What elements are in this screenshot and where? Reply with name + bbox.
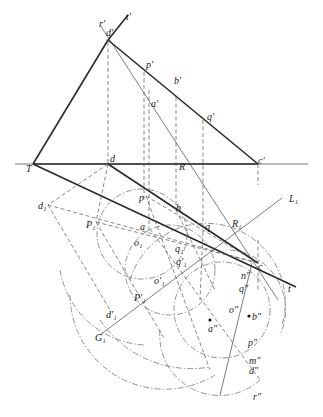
constr-d1-c [48, 205, 258, 263]
label-b: b [176, 202, 181, 213]
label-L1: L₁ [288, 193, 298, 204]
label-b2: b″ [252, 311, 262, 322]
label-q1-prime: q′₁ [176, 256, 187, 267]
label-R: R [178, 161, 185, 172]
point-b2 [247, 314, 250, 317]
label-p2: p″ [247, 337, 258, 348]
label-d-prime: d′ [106, 27, 114, 38]
label-t-prime: t′ [126, 11, 132, 22]
label-c-prime: c′ [258, 155, 265, 166]
label-a2: a″ [208, 323, 218, 334]
label-p: p [138, 192, 144, 203]
arc-lower-2 [100, 320, 210, 369]
arc-lower-3 [160, 330, 260, 396]
label-d: d [110, 153, 116, 164]
label-P1-prime: P′₁ [133, 292, 146, 303]
label-o1-prime: o′₁ [154, 275, 165, 286]
label-d1: d₁ [38, 200, 46, 211]
label-a: a [140, 221, 145, 232]
label-q1: q₁ [175, 243, 183, 254]
constr-d-d1 [48, 164, 108, 205]
label-q-prime: q′ [207, 111, 215, 122]
label-d1-prime: d′₁ [106, 309, 117, 320]
descriptive-geometry-diagram: r′ t′ d′ p′ b′ a′ q′ c′ T d R d₁ p b P₁ … [0, 0, 323, 417]
constr-d1-down [48, 205, 110, 310]
label-o2: o″ [229, 304, 239, 315]
label-d2: d″ [249, 365, 259, 376]
line-T-t [33, 164, 296, 287]
label-a-prime: a′ [151, 98, 159, 109]
label-p-prime: p′ [145, 59, 154, 70]
label-c: c [258, 261, 263, 272]
label-q2: q″ [239, 283, 249, 294]
edge-dprime-cprime [108, 40, 258, 164]
label-R1: R₁ [231, 218, 242, 229]
arc-lower-1 [70, 295, 215, 389]
edge-T-dprime [33, 40, 108, 164]
label-o1: o₁ [134, 237, 142, 248]
label-b-prime: b′ [174, 75, 182, 86]
label-r2: r″ [253, 391, 262, 402]
label-P1: P₁ [85, 219, 96, 230]
label-t: t [288, 283, 291, 294]
label-n2: n″ [241, 270, 251, 281]
label-G1: G₁ [95, 332, 106, 343]
point-a2 [208, 318, 211, 321]
label-T: T [26, 163, 33, 174]
label-r-prime: r′ [99, 18, 106, 29]
label-q: q [205, 221, 210, 232]
